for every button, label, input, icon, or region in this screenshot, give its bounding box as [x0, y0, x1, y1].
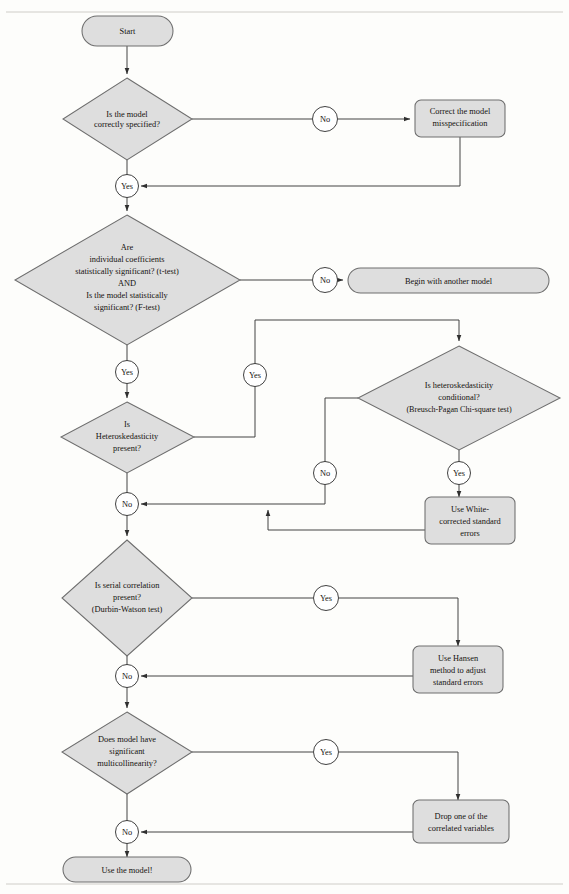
- edge-label-heteroskedasticity-yes: Yes: [244, 364, 267, 387]
- edge-label-multicollinearity-yes-text: Yes: [320, 748, 332, 757]
- decision-significance-line-5: Is the model statistically: [86, 291, 168, 300]
- node-start[interactable]: Start: [82, 16, 173, 46]
- edge-label-conditional-yes: Yes: [448, 462, 471, 485]
- edge-label-conditional-yes-text: Yes: [453, 469, 465, 478]
- edge-label-serial-yes: Yes: [314, 586, 339, 611]
- node-decision-significance[interactable]: Are individual coefficients statisticall…: [15, 215, 240, 345]
- white-corrected-line-2: corrected standard: [439, 517, 501, 526]
- node-decision-multicollinearity[interactable]: Does model have significant multicolline…: [62, 712, 192, 794]
- decision-heteroskedasticity-line-1: Is: [124, 420, 130, 429]
- decision-heteroskedasticity-line-3: present?: [113, 444, 141, 453]
- white-corrected-line-3: errors: [460, 529, 480, 538]
- decision-specification-line-1: Is the model: [106, 110, 148, 119]
- edge-label-multicollinearity-no-text: No: [122, 828, 132, 837]
- flowchart-page: Start Is the model correctly specified? …: [0, 0, 569, 894]
- correct-misspecification-line-1: Correct the model: [430, 107, 491, 116]
- node-decision-heteroskedasticity[interactable]: Is Heteroskedasticity present?: [61, 402, 194, 473]
- connectors: [127, 46, 460, 857]
- node-white-corrected-errors[interactable]: Use White- corrected standard errors: [425, 497, 515, 544]
- edge-label-specification-no-text: No: [320, 115, 330, 124]
- edge-label-specification-no: No: [313, 107, 338, 132]
- edge-label-serial-yes-text: Yes: [320, 594, 332, 603]
- edge-label-serial-no-text: No: [122, 672, 132, 681]
- node-begin-another-model[interactable]: Begin with another model: [348, 268, 549, 293]
- decision-significance-line-2: individual coefficients: [90, 255, 165, 264]
- node-hansen-method[interactable]: Use Hansen method to adjust standard err…: [413, 646, 503, 693]
- decision-conditional-line-3: (Breusch-Pagan Chi-square test): [406, 405, 511, 414]
- node-drop-correlated-variables[interactable]: Drop one of the correlated variables: [413, 800, 509, 843]
- edge-label-heteroskedasticity-no: No: [116, 493, 139, 516]
- node-decision-conditional[interactable]: Is heteroskedasticity conditional? (Breu…: [358, 346, 560, 450]
- white-corrected-line-1: Use White-: [451, 505, 489, 514]
- edge-label-specification-yes-text: Yes: [121, 182, 133, 191]
- edge-label-significance-yes: Yes: [116, 361, 139, 384]
- decision-multi-line-1: Does model have: [98, 735, 156, 744]
- edge-label-heteroskedasticity-no-text: No: [122, 500, 132, 509]
- drop-correlated-line-2: correlated variables: [428, 824, 494, 833]
- node-use-the-model[interactable]: Use the model!: [63, 857, 191, 882]
- edge-label-significance-no-text: No: [320, 276, 330, 285]
- flowchart-canvas: Start Is the model correctly specified? …: [0, 0, 569, 894]
- node-decision-serial-correlation[interactable]: Is serial correlation present? (Durbin-W…: [62, 540, 192, 656]
- hansen-line-3: standard errors: [433, 678, 483, 687]
- decision-significance-line-3: statistically significant? (t-test): [75, 267, 179, 276]
- edge-label-serial-no: No: [116, 665, 139, 688]
- edge-label-conditional-no-text: No: [320, 469, 330, 478]
- decision-significance-line-6: significant? (F-test): [94, 303, 160, 312]
- decision-serial-line-1: Is serial correlation: [95, 581, 160, 590]
- node-correct-misspecification[interactable]: Correct the model misspecification: [415, 100, 505, 137]
- hansen-line-1: Use Hansen: [438, 654, 479, 663]
- hansen-line-2: method to adjust: [430, 666, 487, 675]
- decision-serial-line-2: present?: [113, 593, 141, 602]
- node-start-label: Start: [120, 27, 136, 36]
- drop-correlated-line-1: Drop one of the: [435, 812, 488, 821]
- decision-multi-line-3: multicollinearity?: [97, 759, 157, 768]
- edge-label-multicollinearity-yes: Yes: [314, 740, 339, 765]
- edge-label-heteroskedasticity-yes-text: Yes: [249, 371, 261, 380]
- correct-misspecification-line-2: misspecification: [433, 119, 489, 128]
- decision-heteroskedasticity-line-2: Heteroskedasticity: [96, 432, 159, 441]
- edge-label-specification-yes: Yes: [116, 175, 139, 198]
- edge-label-conditional-no: No: [314, 462, 337, 485]
- use-the-model-label: Use the model!: [101, 866, 152, 875]
- node-decision-specification[interactable]: Is the model correctly specified?: [63, 78, 192, 160]
- decision-conditional-line-1: Is heteroskedasticity: [425, 381, 494, 390]
- edge-label-significance-no: No: [313, 268, 338, 293]
- decision-serial-line-3: (Durbin-Watson test): [92, 605, 163, 614]
- decision-specification-line-2: correctly specified?: [94, 120, 160, 129]
- edge-label-significance-yes-text: Yes: [121, 368, 133, 377]
- edge-label-multicollinearity-no: No: [116, 821, 139, 844]
- decision-multi-line-2: significant: [109, 747, 145, 756]
- decision-significance-line-1: Are: [121, 243, 134, 252]
- decision-significance-line-4: AND: [118, 279, 136, 288]
- decision-conditional-line-2: conditional?: [438, 393, 480, 402]
- begin-another-model-label: Begin with another model: [405, 277, 493, 286]
